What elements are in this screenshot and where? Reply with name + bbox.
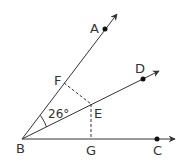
segment-ef [64, 83, 91, 104]
diagram-canvas: A D F E B G C 26° [0, 0, 184, 167]
label-c: C [153, 143, 162, 158]
point-c [155, 137, 160, 142]
angle-label: 26° [48, 107, 69, 121]
geometry-diagram: A D F E B G C 26° [0, 0, 184, 167]
label-a: A [90, 21, 99, 36]
label-f: F [54, 73, 61, 88]
ray-ba [22, 14, 117, 139]
label-g: G [86, 143, 96, 158]
label-e: E [94, 106, 102, 121]
label-d: D [135, 61, 145, 76]
angle-arc-abd [41, 116, 47, 128]
point-a [103, 27, 108, 32]
point-d [141, 77, 146, 82]
label-b: B [16, 141, 25, 156]
